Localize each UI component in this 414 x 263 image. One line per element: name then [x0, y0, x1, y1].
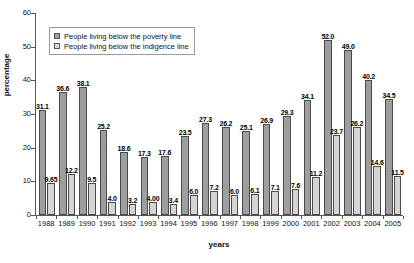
x-tick-mark: [97, 216, 98, 219]
x-tick-mark: [301, 216, 302, 219]
bar-value-label: 18.6: [118, 145, 131, 152]
x-axis-label: years: [35, 240, 403, 249]
legend-label-poverty: People living below the poverty line: [64, 32, 181, 41]
bar-value-label: 17.6: [158, 149, 171, 156]
bar-poverty-2001: 34.1: [304, 100, 312, 215]
legend-item-indigence: People living below the indigence line: [54, 41, 189, 51]
x-tick-label-1997: 1997: [221, 219, 238, 228]
x-tick-mark: [281, 216, 282, 219]
bar-poverty-1990: 38.1: [79, 87, 87, 215]
bar-value-label: 25.1: [240, 124, 253, 131]
x-tick-label-2004: 2004: [364, 219, 381, 228]
x-tick-label-2002: 2002: [323, 219, 340, 228]
bar-chart: percentage 0102030405060 31.19.6536.612.…: [0, 0, 414, 263]
x-tick-mark: [220, 216, 221, 219]
x-tick-label-1995: 1995: [181, 219, 198, 228]
x-axis-ticks: 1988198919901991199219931994199519961997…: [36, 216, 403, 236]
bar-indigence-1989: 12.2: [68, 174, 76, 215]
bar-value-label: 7.6: [291, 182, 300, 189]
bar-value-label: 38.1: [77, 80, 90, 87]
bar-value-label: 26.9: [260, 117, 273, 124]
y-tick-label: 10: [23, 176, 31, 185]
bar-indigence-2002: 23.7: [333, 135, 341, 215]
bar-indigence-1992: 3.2: [129, 204, 137, 215]
x-tick-mark: [342, 216, 343, 219]
bar-indigence-2001: 11.2: [312, 177, 320, 215]
x-tick-label-1990: 1990: [79, 219, 96, 228]
x-tick-label-1991: 1991: [99, 219, 116, 228]
bar-poverty-1998: 25.1: [242, 131, 250, 216]
x-tick-mark: [77, 216, 78, 219]
x-tick-mark: [56, 216, 57, 219]
bar-indigence-2003: 26.2: [353, 127, 361, 215]
x-tick-label-1992: 1992: [119, 219, 136, 228]
bar-value-label: 3.4: [169, 197, 178, 204]
x-tick-mark: [362, 216, 363, 219]
bar-poverty-1995: 23.5: [181, 136, 189, 215]
bar-group: 49.026.2: [342, 13, 362, 215]
bar-value-label: 29.3: [281, 109, 294, 116]
bar-poverty-2003: 49.0: [344, 50, 352, 215]
bar-value-label: 27.3: [199, 116, 212, 123]
y-tick-label: 50: [23, 42, 31, 51]
x-tick-label-1988: 1988: [38, 219, 55, 228]
x-tick-label-1994: 1994: [160, 219, 177, 228]
bar-value-label: 6.0: [230, 188, 239, 195]
bar-value-label: 23.5: [179, 129, 192, 136]
bar-group: 26.26.0: [220, 13, 240, 215]
x-tick-label-1998: 1998: [242, 219, 259, 228]
bar-group: 52.023.7: [321, 13, 341, 215]
bar-poverty-1997: 26.2: [222, 127, 230, 215]
x-tick-label-1996: 1996: [201, 219, 218, 228]
bar-poverty-2000: 29.3: [283, 116, 291, 215]
bar-value-label: 26.2: [219, 120, 232, 127]
x-tick-label-2003: 2003: [344, 219, 361, 228]
bar-value-label: 4.0: [108, 195, 117, 202]
bar-value-label: 36.6: [56, 85, 69, 92]
bar-value-label: 3.2: [128, 197, 137, 204]
bar-indigence-1996: 7.2: [210, 191, 218, 215]
bar-indigence-1995: 6.0: [190, 195, 198, 215]
x-tick-label-1993: 1993: [140, 219, 157, 228]
x-tick-mark: [260, 216, 261, 219]
x-tick-mark: [36, 216, 37, 219]
bar-value-label: 52.0: [321, 33, 334, 40]
bar-poverty-1993: 17.3: [141, 157, 149, 215]
bar-indigence-1988: 9.65: [47, 183, 55, 215]
bar-indigence-1998: 6.1: [251, 194, 259, 215]
x-tick-mark: [158, 216, 159, 219]
bar-value-label: 31.1: [36, 103, 49, 110]
bar-value-label: 34.1: [301, 93, 314, 100]
x-tick-mark: [321, 216, 322, 219]
bar-value-label: 11.2: [310, 170, 322, 177]
bar-group: 27.37.2: [199, 13, 219, 215]
bar-poverty-1996: 27.3: [202, 123, 210, 215]
bar-group: 40.214.6: [362, 13, 382, 215]
x-tick-label-2000: 2000: [283, 219, 300, 228]
bar-poverty-1988: 31.1: [39, 110, 47, 215]
legend-swatch-icon-indigence: [54, 43, 60, 49]
x-tick-label-2005: 2005: [384, 219, 401, 228]
x-tick-mark: [118, 216, 119, 219]
bar-indigence-2005: 11.5: [394, 176, 402, 215]
x-tick-mark: [240, 216, 241, 219]
x-tick-mark: [199, 216, 200, 219]
bar-value-label: 49.0: [342, 43, 355, 50]
x-tick-mark: [138, 216, 139, 219]
y-axis-label: percentage: [2, 35, 11, 115]
bar-poverty-1989: 36.6: [59, 92, 67, 215]
y-tick-label: 40: [23, 75, 31, 84]
bar-indigence-1990: 9.5: [88, 183, 96, 215]
bar-indigence-1994: 3.4: [170, 204, 178, 215]
bar-poverty-2004: 40.2: [365, 80, 373, 215]
bar-value-label: 6.1: [250, 187, 259, 194]
bar-indigence-2004: 14.6: [373, 166, 381, 215]
bar-poverty-1991: 25.2: [100, 130, 108, 215]
bar-value-label: 7.2: [210, 184, 219, 191]
y-tick-label: 0: [27, 210, 31, 219]
bar-indigence-1991: 4.0: [108, 202, 116, 215]
bar-poverty-2005: 34.5: [385, 99, 393, 215]
legend-item-poverty: People living below the poverty line: [54, 31, 189, 41]
bar-value-label: 40.2: [362, 73, 375, 80]
x-tick-mark: [383, 216, 384, 219]
